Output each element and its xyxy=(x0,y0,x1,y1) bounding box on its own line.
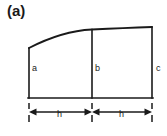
figure-container: (a) a b c h h xyxy=(0,0,167,136)
ordinate-label-b: b xyxy=(95,64,100,73)
ordinate-label-a: a xyxy=(32,64,37,73)
arrowhead-right-start-icon xyxy=(92,109,100,116)
dimension-label-h-left: h xyxy=(57,110,62,119)
dimension-label-h-right: h xyxy=(119,110,124,119)
arrowhead-left-end-icon xyxy=(85,109,93,116)
arrowhead-right-end-icon xyxy=(145,109,153,116)
ordinate-label-c: c xyxy=(156,64,161,73)
arrowhead-left-start-icon xyxy=(29,109,37,116)
diagram-canvas xyxy=(0,0,167,136)
top-curve xyxy=(29,27,152,48)
